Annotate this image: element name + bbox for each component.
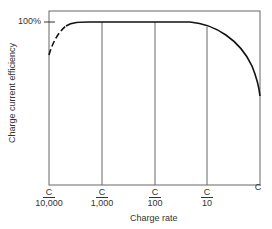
efficiency-curve-dashed [49, 26, 66, 55]
x-axis-label: Charge rate [130, 213, 178, 223]
x-tick-c: C [238, 182, 272, 192]
x-tick-c-10000: C 10,000 [29, 187, 69, 208]
y-tick-100pct: 100% [18, 16, 41, 26]
x-tick-c-100: C 100 [135, 187, 175, 208]
efficiency-curve [66, 22, 260, 96]
x-tick-c-10: C 10 [187, 187, 227, 208]
x-tick-c-1000: C 1,000 [82, 187, 122, 208]
y-axis-label: Charge current efficiency [7, 33, 17, 153]
